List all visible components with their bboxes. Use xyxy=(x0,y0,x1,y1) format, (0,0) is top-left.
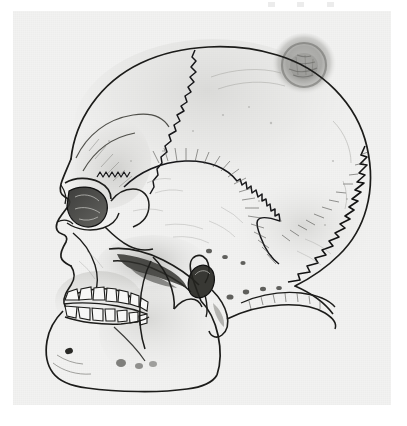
parietal-lesion xyxy=(272,33,336,95)
orbital-cavity xyxy=(67,187,107,227)
scan-artifact-mark xyxy=(268,2,275,7)
skull-drawing xyxy=(13,11,391,405)
mental-foramen xyxy=(64,347,74,355)
scan-artifact-mark xyxy=(327,2,334,7)
skull-illustration-figure: Human skull, left lateral view xyxy=(0,0,407,426)
mandible-fossa-mark xyxy=(149,361,157,367)
mandible-fossa-mark xyxy=(135,363,143,369)
paper-sheet xyxy=(13,11,391,405)
occipital-lower-border xyxy=(227,305,336,329)
scan-artifact-mark xyxy=(297,2,304,7)
occipital-bone-shading xyxy=(233,174,373,278)
mental-protuberance-shading xyxy=(53,355,91,374)
mandible-fossa-mark xyxy=(116,359,126,367)
